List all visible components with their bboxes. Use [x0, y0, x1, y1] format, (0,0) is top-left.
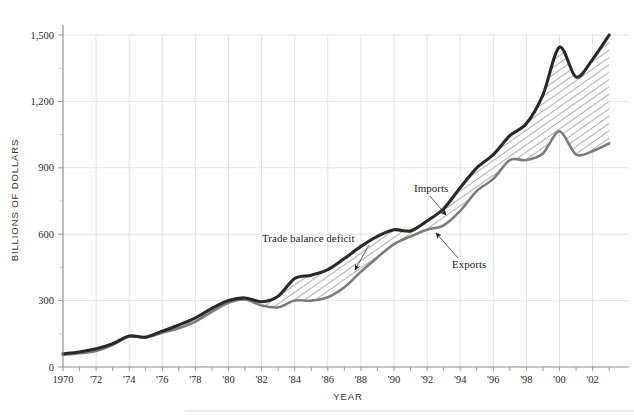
series-layer: [63, 35, 609, 355]
x-tick-label: '80: [222, 374, 234, 385]
annotation-label-0: Trade balance deficit: [262, 232, 354, 244]
x-tick-label: '98: [520, 374, 532, 385]
annotation-leader-2: [436, 233, 458, 258]
x-tick-label: '72: [90, 374, 102, 385]
x-tick-label: 1970: [53, 374, 74, 385]
x-tick-label: '78: [189, 374, 201, 385]
x-tick-label: '00: [553, 374, 565, 385]
x-axis-title: YEAR: [333, 391, 362, 402]
x-tick-label: '84: [288, 374, 301, 385]
deficit-band: [63, 35, 609, 355]
x-tick-label: '86: [322, 374, 334, 385]
y-tick-label: 1,200: [30, 96, 54, 107]
y-tick-label: 1,500: [30, 30, 54, 41]
x-tick-label: '82: [255, 374, 267, 385]
x-tick-label: '92: [421, 374, 433, 385]
y-tick-label: 900: [38, 162, 54, 173]
x-tick-label: '88: [355, 374, 367, 385]
x-tick-label: '74: [123, 374, 136, 385]
x-tick-label: '96: [487, 374, 499, 385]
annotation-label-1: Imports: [414, 182, 448, 194]
x-tick-label: '90: [388, 374, 400, 385]
annotation-label-2: Exports: [452, 258, 486, 270]
y-tick-label: 0: [49, 362, 54, 373]
trade-balance-chart: 03006009001,2001,5001970'72'74'76'78'80'…: [0, 0, 634, 415]
y-tick-label: 600: [38, 229, 54, 240]
chart-canvas: 03006009001,2001,5001970'72'74'76'78'80'…: [0, 0, 634, 415]
y-tick-label: 300: [38, 295, 54, 306]
axis-layer: [63, 25, 629, 367]
y-axis-title: BILLIONS OF DOLLARS: [9, 139, 20, 262]
x-tick-label: '02: [586, 374, 598, 385]
x-tick-label: '94: [454, 374, 467, 385]
imports-line: [63, 35, 609, 354]
grid-layer: [63, 35, 629, 367]
tick-label-layer: 03006009001,2001,5001970'72'74'76'78'80'…: [30, 30, 609, 386]
trade-deficit-fill: [63, 35, 609, 355]
x-tick-label: '76: [156, 374, 168, 385]
